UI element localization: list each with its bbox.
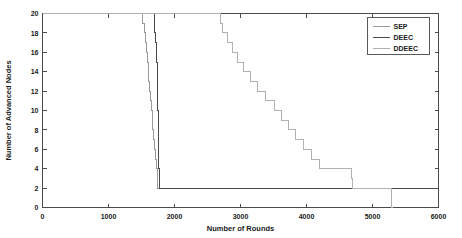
y-tick-label: 2 (35, 185, 39, 192)
y-tick-label: 0 (35, 204, 39, 211)
y-tick-label: 4 (35, 165, 39, 172)
x-tick-label: 2000 (167, 213, 183, 220)
x-tick-label: 5000 (365, 213, 381, 220)
y-tick-label: 14 (31, 68, 39, 75)
legend-label-sep[interactable]: SEP (394, 23, 408, 30)
x-axis-title: Number of Rounds (207, 224, 275, 233)
axis-titles: Number of RoundsNumber of Advanced Nodes (4, 60, 274, 232)
y-tick-label: 12 (31, 88, 39, 95)
x-tick-label: 4000 (299, 213, 315, 220)
x-tick-label: 6000 (431, 213, 447, 220)
x-tick-label: 1000 (101, 213, 117, 220)
x-tick-label: 3000 (233, 213, 249, 220)
y-axis-title: Number of Advanced Nodes (4, 60, 13, 160)
series-line-ddeec (43, 14, 393, 208)
legend-label-ddeec[interactable]: DDEEC (394, 45, 419, 52)
y-tick-label: 16 (31, 49, 39, 56)
y-tick-label: 20 (31, 10, 39, 17)
y-tick-label: 10 (31, 107, 39, 114)
y-tick-label: 18 (31, 30, 39, 37)
line-chart: 0100020003000400050006000024681012141618… (0, 0, 462, 238)
chart-figure: 0100020003000400050006000024681012141618… (0, 0, 462, 238)
y-tick-label: 6 (35, 146, 39, 153)
x-tick-label: 0 (41, 213, 45, 220)
y-tick-label: 8 (35, 127, 39, 134)
chart-legend[interactable]: SEPDEECDDEEC (368, 18, 430, 55)
legend-label-deec[interactable]: DEEC (394, 34, 413, 41)
